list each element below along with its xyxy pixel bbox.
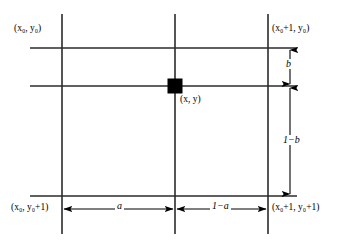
bilinear-interpolation-diagram: (x₀, y₀) (x₀+1, y₀) (x₀, y₀+1) (x₀+1, y₀…	[0, 0, 337, 245]
sample-point-label: (x, y)	[180, 95, 201, 105]
dimension-label-1-minus-a: 1−a	[210, 201, 231, 211]
grid-vertical-lines	[62, 14, 268, 234]
dimension-label-a: a	[115, 201, 124, 211]
dimension-label-1-minus-b: 1−b	[281, 135, 302, 145]
corner-label-bottom-right: (x₀+1, y₀+1)	[272, 203, 319, 213]
sample-point-marker	[168, 79, 183, 94]
corner-label-bottom-left: (x₀, y₀+1)	[11, 203, 48, 213]
grid-horizontal-lines	[30, 48, 297, 196]
dimension-label-b: b	[284, 59, 293, 69]
corner-label-top-right: (x₀+1, y₀)	[272, 24, 309, 34]
corner-label-top-left: (x₀, y₀)	[14, 24, 41, 34]
